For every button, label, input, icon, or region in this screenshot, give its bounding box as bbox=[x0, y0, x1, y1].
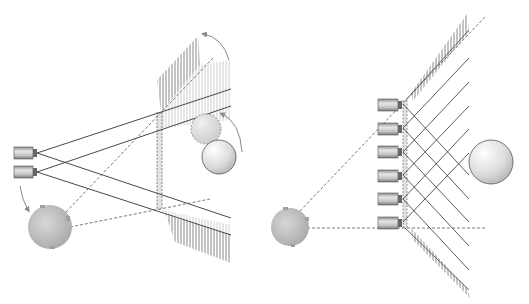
camera-5 bbox=[378, 193, 402, 205]
camera-2 bbox=[378, 123, 402, 135]
camera-window bbox=[403, 100, 407, 228]
left-panel bbox=[14, 34, 242, 263]
camera-6 bbox=[378, 217, 402, 229]
camera-4 bbox=[378, 170, 402, 182]
right-panel bbox=[271, 14, 513, 298]
camera-1 bbox=[14, 147, 37, 159]
vertical-window bbox=[157, 112, 162, 210]
lower-reflector bbox=[162, 210, 231, 263]
upper-reflector bbox=[411, 14, 469, 101]
sphere-ghost bbox=[191, 114, 221, 144]
camera-1 bbox=[378, 99, 402, 111]
sphere-object bbox=[202, 140, 236, 174]
rotation-arrow-camera bbox=[20, 186, 28, 210]
sphere-object bbox=[469, 140, 513, 184]
lower-reflector bbox=[411, 228, 470, 298]
rotation-arrow-upper bbox=[204, 34, 229, 60]
light-source bbox=[271, 207, 309, 247]
camera-3 bbox=[378, 146, 402, 158]
camera-2 bbox=[14, 166, 37, 178]
light-source bbox=[28, 205, 72, 249]
diagram-canvas bbox=[0, 0, 529, 304]
